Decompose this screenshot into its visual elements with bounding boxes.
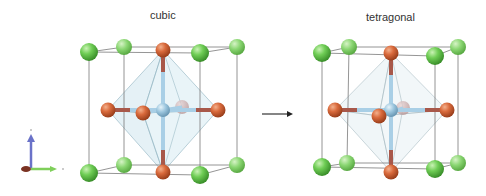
cation-a-atom <box>116 157 132 173</box>
cation-a-atom <box>450 155 466 171</box>
cation-a-atom <box>191 166 209 184</box>
anion-atom <box>156 165 171 180</box>
cation-a-atom <box>450 39 466 55</box>
cation-a-atom <box>313 44 331 62</box>
axes-indicator <box>21 129 64 172</box>
tetragonal-structure <box>313 39 466 180</box>
arrow-right-icon <box>262 111 293 117</box>
anion-atom <box>156 43 171 58</box>
cation-a-atom <box>313 158 331 176</box>
anion-atom <box>384 165 399 180</box>
cation-a-atom <box>229 157 245 173</box>
cation-a-atom <box>426 47 444 65</box>
z-axis-arrow <box>21 166 31 172</box>
anion-atom <box>101 103 116 118</box>
crystal-structure-diagram <box>0 0 486 196</box>
cation-b-atom <box>156 103 170 117</box>
anion-atom <box>211 103 226 118</box>
cation-a-atom <box>191 44 209 62</box>
anion-atom <box>136 106 151 121</box>
cation-a-atom <box>229 39 245 55</box>
cation-a-atom <box>339 155 355 171</box>
cation-a-atom <box>80 43 98 61</box>
anion-atom <box>328 103 343 118</box>
cation-a-atom <box>116 39 132 55</box>
anion-atom <box>384 46 399 61</box>
cation-a-atom <box>341 39 357 55</box>
cation-a-atom <box>80 164 98 182</box>
anion-atom <box>372 109 387 124</box>
cubic-structure <box>80 39 245 184</box>
cation-a-atom <box>426 160 444 178</box>
anion-atom <box>440 103 455 118</box>
